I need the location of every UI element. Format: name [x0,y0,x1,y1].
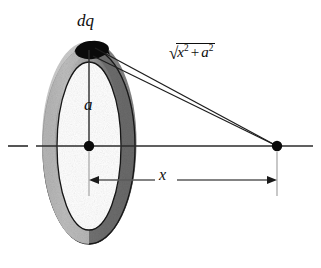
field-point [272,141,282,151]
hyp-term-2: a [201,44,209,60]
hypotenuse-label: √x2+a2 [169,44,215,61]
hyp-exponent-1: 2 [184,43,189,53]
hyp-term-1: x [177,44,184,60]
x-arrowhead-right [267,176,277,184]
ring-field-diagram [0,0,321,268]
figure-canvas: dq a x √x2+a2 [0,0,321,268]
radius-label-a: a [84,96,93,113]
dq-label: dq [77,12,94,29]
hyp-exponent-2: 2 [209,43,214,53]
hyp-operator: + [189,44,201,60]
ring-center-point [84,141,94,151]
distance-label-x: x [159,167,166,183]
